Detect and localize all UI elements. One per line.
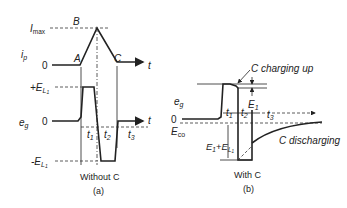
- panel-a: ip Imax B A C 0 t +EL1 eg 0 -EL1 t t1 t2…: [19, 16, 152, 196]
- eco-label: Eco: [171, 126, 185, 138]
- ip-axis-label: ip: [21, 49, 27, 62]
- c-discharging-label: C discharging: [279, 135, 341, 146]
- minus-el-label: -EL1: [31, 156, 48, 169]
- discharge-extrapolation: [238, 146, 252, 160]
- caption-title-b: With C: [234, 170, 262, 180]
- point-a-label: A: [73, 53, 81, 64]
- eg-axis-label-b: eg: [174, 96, 184, 109]
- caption-id-a: (a): [93, 186, 104, 196]
- t1-label-b: t1: [226, 107, 233, 119]
- charging-up-label: C charging up: [251, 63, 314, 74]
- plus-el-label: +EL1: [30, 82, 49, 95]
- caption-title-a: Without C: [80, 172, 120, 182]
- e1-plus-el-label: E1+EL1: [206, 141, 235, 154]
- t3-label-b: t3: [267, 109, 274, 121]
- t2-label: t2: [104, 129, 111, 141]
- imax-label: Imax: [30, 23, 46, 35]
- panel-b: C charging up E1 eg 0 Eco t1 t2 t3 E1+EL…: [171, 63, 341, 194]
- t3-label: t3: [128, 129, 135, 141]
- e1-label: E1: [248, 99, 259, 111]
- t2-label-b: t2: [241, 107, 248, 119]
- ip-waveform: [52, 28, 143, 65]
- ip-zero-label: 0: [42, 60, 48, 71]
- t1-label: t1: [87, 129, 94, 141]
- eg-axis-label: eg: [19, 117, 29, 130]
- eg-zero-label: 0: [42, 116, 48, 127]
- eg-time-label: t: [148, 115, 152, 126]
- point-b-label: B: [73, 16, 80, 27]
- zero-label-b: 0: [171, 114, 177, 125]
- eg-waveform: [52, 87, 143, 161]
- charging-pointer-arrow: [238, 70, 250, 83]
- caption-id-b: (b): [243, 184, 254, 194]
- waveform-diagram: ip Imax B A C 0 t +EL1 eg 0 -EL1 t t1 t2…: [0, 0, 347, 208]
- ip-time-label: t: [148, 60, 152, 71]
